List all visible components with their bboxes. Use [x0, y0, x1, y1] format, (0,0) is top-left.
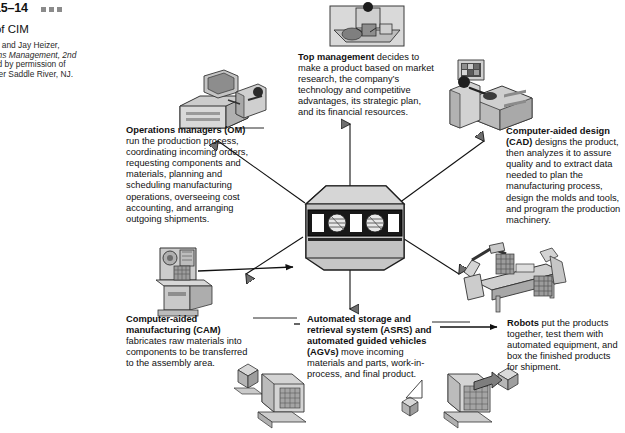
node-text-operations-managers: Operations managers (OM) run the product…	[126, 125, 258, 225]
central-cim-computer	[306, 186, 404, 270]
node-term-operations-managers: Operations managers (OM)	[126, 125, 245, 135]
robotic-assembly-line-illustration	[464, 243, 566, 312]
decorative-square	[57, 7, 62, 12]
decorative-squares	[41, 7, 62, 12]
figure-caption: s of CIM	[0, 23, 29, 35]
node-text-top-management: Top management decides to make a product…	[298, 52, 438, 119]
node-body-computer-aided-manufacturing: fabricates raw materials into components…	[126, 336, 247, 368]
node-text-computer-aided-manufacturing: Computer-aided manufacturing (CAM) fabri…	[126, 314, 248, 369]
credit-line-2: perations Management, 2nd	[0, 50, 76, 60]
node-text-computer-aided-design: Computer-aided design (CAD) designs the …	[506, 126, 624, 226]
cad-workstation-illustration	[450, 60, 532, 130]
node-term-computer-aided-manufacturing: Computer-aided manufacturing (CAM)	[126, 314, 221, 335]
node-term-robots: Robots	[507, 318, 539, 328]
credit-line-1: Render and Jay Heizer,	[0, 40, 60, 50]
decorative-square	[41, 7, 46, 12]
credit-line-4: c., Upper Saddle River, NJ.	[0, 69, 73, 79]
node-term-top-management: Top management	[298, 52, 374, 62]
node-body-computer-aided-design: designs the product, then analyzes it to…	[506, 137, 620, 225]
figure-credit: Render and Jay Heizer, perations Managem…	[0, 41, 102, 79]
credit-line-3: eprinted by permission of	[0, 59, 66, 69]
cnc-machine-illustration	[156, 248, 212, 316]
node-text-asrs-agv: Automated storage and retrieval system (…	[307, 314, 432, 381]
node-text-robots: Robots put the products together, test t…	[507, 318, 623, 373]
leader-lines	[236, 128, 470, 322]
office-workstation-illustration	[180, 70, 266, 128]
figure-page: 15–14 s of CIM Render and Jay Heizer, pe…	[0, 0, 625, 433]
figure-number: 15–14	[0, 1, 28, 15]
executive-at-desk-illustration	[330, 2, 404, 46]
node-body-operations-managers: run the production process, coordinating…	[126, 136, 248, 224]
decorative-square	[49, 7, 54, 12]
